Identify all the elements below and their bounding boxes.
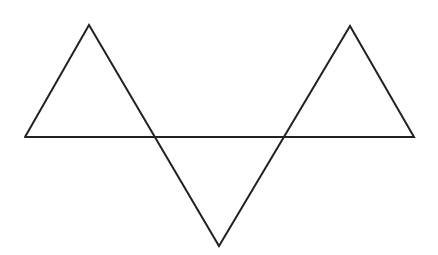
- zigzag-triangles-shape: [25, 25, 414, 246]
- geometric-line-drawing: [0, 0, 438, 255]
